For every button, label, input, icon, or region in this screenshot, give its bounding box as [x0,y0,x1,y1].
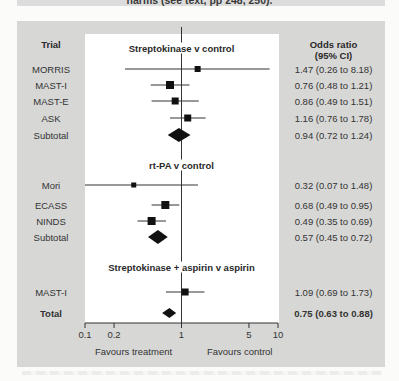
odds-ratio-value: 0.86 (0.49 to 1.51) [282,96,385,107]
tick-label-0-1: 0.1 [78,329,91,340]
point-estimate-square [166,81,174,89]
tick-label-0-2: 0.2 [107,329,120,340]
subtotal-label: Subtotal [17,232,85,243]
page-bleed-texture [22,371,382,375]
tick-label-1: 1 [179,329,184,340]
tick-label-5: 5 [246,329,251,340]
point-estimate-square [172,98,179,105]
trial-label: MORRIS [17,64,85,75]
point-estimate-square [161,201,169,209]
odds-ratio-value: 0.68 (0.49 to 0.95) [282,200,385,211]
group-title: Streptokinase + aspirin v aspirin [106,262,257,273]
trial-label: NINDS [17,216,85,227]
trial-label: ASK [17,113,85,124]
odds-ratio-value: 1.47 (0.26 to 8.18) [282,64,385,75]
point-estimate-square [184,115,191,122]
odds-ratio-value: 0.76 (0.48 to 1.21) [282,80,385,91]
subtotal-value: 0.94 (0.72 to 1.24) [282,130,385,141]
trial-label: MAST-E [17,96,85,107]
subtotal-value: 0.57 (0.45 to 0.72) [282,232,385,243]
trial-label: MAST-I [17,287,85,298]
trial-label: ECASS [17,200,85,211]
odds-ratio-value: 0.49 (0.35 to 0.69) [282,216,385,227]
point-estimate-square [182,289,189,296]
point-estimate-square [195,66,201,72]
trial-label: Mori [17,180,85,191]
tick-label-10: 10 [273,329,284,340]
summary-diamond [162,308,176,318]
subtotal-label: Subtotal [17,130,85,141]
favours-control-label: Favours control [207,346,272,357]
forest-plot [0,0,399,381]
group-title: rt-PA v control [147,160,216,171]
point-estimate-square [131,183,136,188]
total-label: Total [17,308,85,319]
total-value: 0.75 (0.63 to 0.88) [282,308,385,319]
odds-ratio-value: 1.09 (0.69 to 1.73) [282,287,385,298]
summary-diamond [168,128,191,142]
odds-ratio-value: 1.16 (0.76 to 1.78) [282,113,385,124]
favours-treatment-label: Favours treatment [95,346,172,357]
group-title: Streptokinase v control [127,43,237,54]
summary-diamond [148,230,168,244]
point-estimate-square [148,217,156,225]
odds-ratio-value: 0.32 (0.07 to 1.48) [282,180,385,191]
trial-label: MAST-I [17,80,85,91]
